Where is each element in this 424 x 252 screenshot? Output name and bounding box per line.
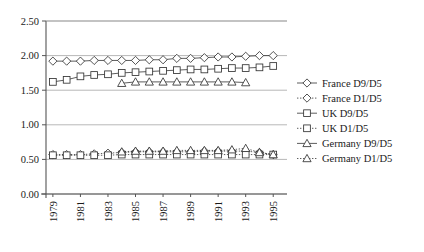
data-point-marker <box>63 57 71 65</box>
y-tick-label: 0.50 <box>21 154 39 165</box>
data-point-marker <box>90 56 98 64</box>
y-axis-tick-labels: 0.000.501.001.502.002.50 <box>21 16 46 200</box>
legend-item-germany-d1-d5[interactable]: Germany D1/D5 <box>297 153 392 164</box>
x-tick-label: 1983 <box>103 201 114 222</box>
x-tick-label: 1979 <box>48 201 59 222</box>
earnings-dispersion-line-chart: 0.000.501.001.502.002.50 197919811983198… <box>0 0 424 252</box>
legend-label: UK D9/D5 <box>322 108 368 119</box>
legend-marker-triangle-icon <box>303 154 311 161</box>
legend-label: France D9/D5 <box>322 78 382 89</box>
data-point-marker <box>270 63 277 70</box>
data-point-marker <box>132 69 139 76</box>
data-point-marker <box>131 78 139 85</box>
grid-lines <box>46 21 287 194</box>
data-point-marker <box>77 152 84 159</box>
x-tick-label: 1985 <box>130 201 141 222</box>
legend-label: Germany D1/D5 <box>322 153 392 164</box>
legend-item-france-d9-d5[interactable]: France D9/D5 <box>297 78 382 89</box>
legend-marker-diamond-icon <box>303 79 311 87</box>
data-point-marker <box>91 72 98 79</box>
data-point-marker <box>105 71 112 78</box>
data-point-marker <box>269 52 277 60</box>
x-axis-tick-labels: 197919811983198519871989199119931995 <box>48 194 279 222</box>
data-point-marker <box>242 144 250 151</box>
data-point-marker <box>76 57 84 65</box>
data-point-marker <box>255 52 263 60</box>
data-point-marker <box>77 73 84 80</box>
legend-marker-square-icon <box>304 110 311 117</box>
data-point-marker <box>50 152 57 159</box>
legend-label: Germany D9/D5 <box>322 138 392 149</box>
legend-label: UK D1/D5 <box>322 123 368 134</box>
legend-marker-square-icon <box>304 125 311 132</box>
data-point-marker <box>187 66 194 73</box>
data-point-marker <box>63 76 70 83</box>
data-point-marker <box>200 54 208 62</box>
legend-item-germany-d9-d5[interactable]: Germany D9/D5 <box>297 138 392 149</box>
data-point-marker <box>214 78 222 85</box>
data-point-marker <box>229 65 236 72</box>
legend-marker-diamond-icon <box>303 94 311 102</box>
legend-item-france-d1-d5[interactable]: France D1/D5 <box>297 93 382 104</box>
data-point-marker <box>242 52 250 60</box>
legend-item-uk-d1-d5[interactable]: UK D1/D5 <box>297 123 368 134</box>
data-point-marker <box>159 56 167 64</box>
data-point-marker <box>228 146 236 153</box>
data-point-marker <box>91 152 98 159</box>
legend-item-uk-d9-d5[interactable]: UK D9/D5 <box>297 108 368 119</box>
chart-legend: France D9/D5France D1/D5UK D9/D5UK D1/D5… <box>297 78 392 165</box>
data-point-marker <box>131 56 139 64</box>
chart-container: 0.000.501.001.502.002.50 197919811983198… <box>0 0 424 252</box>
x-tick-label: 1995 <box>268 201 279 222</box>
data-point-marker <box>118 70 125 77</box>
data-point-marker <box>145 56 153 64</box>
legend-label: France D1/D5 <box>322 93 382 104</box>
data-point-marker <box>63 152 70 159</box>
data-point-marker <box>160 67 167 74</box>
data-point-marker <box>173 78 181 85</box>
data-point-marker <box>215 65 222 72</box>
series-germany-d1-d5 <box>118 144 278 158</box>
data-point-marker <box>201 66 208 73</box>
series-germany-d9-d5 <box>118 78 250 87</box>
data-point-marker <box>104 56 112 64</box>
y-tick-label: 2.50 <box>21 16 39 27</box>
series-france-d9-d5 <box>49 52 278 66</box>
x-tick-label: 1989 <box>185 201 196 222</box>
data-point-marker <box>200 78 208 85</box>
data-point-marker <box>242 65 249 72</box>
data-point-marker <box>50 79 57 86</box>
data-point-marker <box>228 53 236 61</box>
series-line <box>122 82 246 83</box>
data-point-marker <box>256 64 263 71</box>
x-tick-label: 1993 <box>240 201 251 222</box>
data-point-marker <box>228 78 236 85</box>
data-point-marker <box>49 57 57 65</box>
legend-marker-triangle-icon <box>303 139 311 146</box>
y-tick-label: 1.50 <box>21 85 39 96</box>
data-point-marker <box>159 78 167 85</box>
data-point-marker <box>173 146 181 153</box>
data-point-marker <box>173 67 180 74</box>
x-tick-label: 1981 <box>75 201 86 222</box>
data-point-marker <box>146 68 153 75</box>
data-point-marker <box>145 78 153 85</box>
x-tick-label: 1991 <box>213 201 224 222</box>
data-series-layer <box>49 52 278 159</box>
data-point-marker <box>105 152 112 159</box>
data-point-marker <box>118 56 126 64</box>
data-point-marker <box>242 151 249 158</box>
data-point-marker <box>187 78 195 85</box>
data-point-marker <box>187 146 195 153</box>
y-tick-label: 2.00 <box>21 50 39 61</box>
y-tick-label: 1.00 <box>21 119 39 130</box>
x-tick-label: 1987 <box>158 201 169 222</box>
y-tick-label: 0.00 <box>21 189 39 200</box>
data-point-marker <box>214 53 222 61</box>
plot-frame <box>41 21 287 198</box>
